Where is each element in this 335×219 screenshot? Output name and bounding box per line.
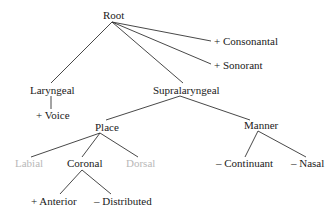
node-anterior: + Anterior bbox=[31, 195, 77, 207]
node-consonantal: + Consonantal bbox=[214, 35, 278, 47]
node-voice: + Voice bbox=[36, 109, 70, 121]
node-manner: Manner bbox=[244, 119, 278, 131]
node-labial: Labial bbox=[15, 157, 43, 169]
node-distributed: – Distributed bbox=[94, 195, 152, 207]
node-continuant: – Continuant bbox=[216, 157, 273, 169]
feature-tree-diagram: Root + Consonantal + Sonorant Laryngeal … bbox=[0, 0, 335, 219]
node-dorsal: Dorsal bbox=[126, 157, 155, 169]
node-laryngeal: Laryngeal bbox=[30, 84, 75, 96]
node-sonorant: + Sonorant bbox=[214, 59, 263, 71]
node-nasal: – Nasal bbox=[291, 157, 324, 169]
node-coronal: Coronal bbox=[67, 157, 102, 169]
node-supralaryngeal: Supralaryngeal bbox=[153, 84, 220, 96]
node-root: Root bbox=[103, 9, 124, 21]
node-place: Place bbox=[95, 121, 119, 133]
